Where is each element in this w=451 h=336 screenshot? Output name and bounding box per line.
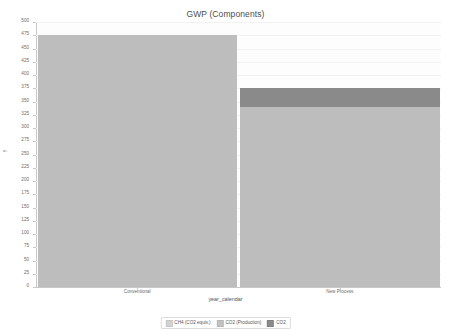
y-axis-tick-label: 150 [21,204,29,209]
y-axis-tick-label: 350 [21,98,29,103]
x-axis-title: year_calendar [0,296,451,302]
y-axis-tick-mark [33,287,36,288]
bar-segment[interactable] [240,88,440,107]
bar-group[interactable] [38,22,238,287]
y-axis-tick-label: 175 [21,190,29,195]
legend-swatch [165,320,172,327]
legend-swatch [216,320,223,327]
bar-group[interactable] [240,22,440,287]
y-axis-tick-label: 100 [21,230,29,235]
y-axis-tick-label: 425 [21,58,29,63]
y-axis-tick-label: 475 [21,31,29,36]
bar-segment[interactable] [38,35,238,287]
chart-title: GWP (Components) [0,9,451,19]
y-axis-tick-label: 0 [26,283,29,288]
bar-segment[interactable] [240,107,440,287]
legend-item[interactable]: CO2 [267,320,285,327]
y-axis-tick-label: 375 [21,84,29,89]
legend-label: CH4 (CO2 equiv.) [174,320,210,326]
y-axis-tick-label: 25 [24,270,29,275]
legend-swatch [267,320,274,327]
legend-item[interactable]: CH4 (CO2 equiv.) [165,320,210,327]
y-axis-tick-label: 125 [21,217,29,222]
y-axis-tick-label: 225 [21,164,29,169]
y-axis-tick-label: 325 [21,111,29,116]
y-axis-title: y [2,150,7,152]
y-axis-tick-label: 50 [24,257,29,262]
chart-root: GWP (Components) 02550751001251501752002… [0,0,451,336]
x-axis-tick-label: Conventional [36,289,239,294]
y-axis-tick-label: 200 [21,177,29,182]
y-axis-tick-label: 500 [21,18,29,23]
x-axis-line [36,287,441,288]
legend-item[interactable]: CO2 (Production) [216,320,261,327]
y-axis-tick-label: 400 [21,71,29,76]
y-axis-tick-label: 275 [21,137,29,142]
legend-label: CO2 (Production) [225,320,261,326]
y-axis-tick-label: 250 [21,151,29,156]
legend-label: CO2 [276,320,285,326]
y-axis-tick-label: 75 [24,243,29,248]
x-axis-tick-label: New Process [239,289,442,294]
chart-legend: CH4 (CO2 equiv.)CO2 (Production)CO2 [160,317,290,329]
y-axis-tick-label: 300 [21,124,29,129]
y-axis-tick-label: 450 [21,45,29,50]
